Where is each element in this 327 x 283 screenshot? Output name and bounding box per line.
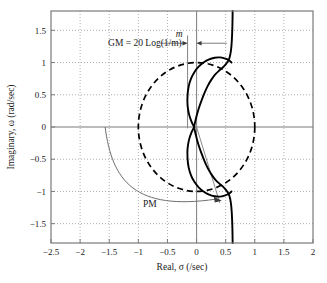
x-axis-title: Real, σ (/sec) [157,262,208,273]
x-tick-label: 1 [253,247,258,257]
x-tick-label: 1.5 [278,247,290,257]
x-tick-label: −0.5 [159,247,176,257]
y-tick-label: 1 [42,58,47,68]
y-tick-label: 1.5 [35,26,47,36]
y-tick-label: −1 [36,187,46,197]
x-tick-label: 2 [311,247,316,257]
gain-margin-label: GM = 20 Log(1/m) [108,38,182,49]
x-tick-label: −1.5 [101,247,118,257]
y-tick-label: 0.5 [35,90,47,100]
x-tick-label: −1 [134,247,144,257]
phase-margin-label: PM [143,199,157,209]
y-tick-label: −0.5 [30,154,47,164]
x-tick-label: 0 [194,247,199,257]
m-label: m [176,29,183,39]
x-tick-label: −2 [75,247,85,257]
chart-canvas: −2.5−2−1.5−1−0.500.511.52−1.5−1−0.500.51… [0,0,327,283]
nyquist-plot-figure: −2.5−2−1.5−1−0.500.511.52−1.5−1−0.500.51… [0,0,327,283]
y-tick-label: −1.5 [30,219,47,229]
x-tick-label: 0.5 [220,247,232,257]
y-tick-label: 0 [42,122,47,132]
y-axis-title: Imaginary, ω (rad/sec) [6,84,17,169]
x-tick-label: −2.5 [43,247,60,257]
